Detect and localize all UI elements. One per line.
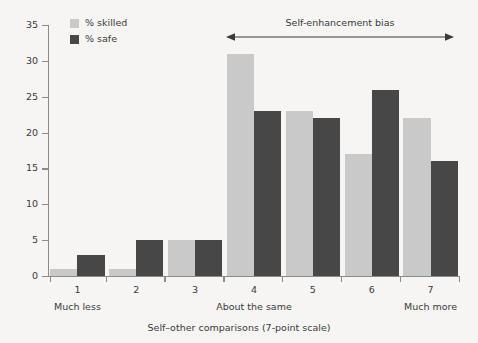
bar-skilled-5: [286, 111, 313, 276]
x-endpoint-much-more: Much more: [371, 301, 478, 312]
x-axis-tick-label: 5: [293, 284, 333, 295]
bar-chart: % skilled % safe Self-enhancement bias 0…: [0, 0, 478, 343]
y-axis-tick-label: 5: [0, 234, 38, 245]
x-axis-line: [48, 276, 460, 277]
x-axis-tick: [459, 277, 460, 282]
bar-safe-6: [372, 90, 399, 276]
bar-skilled-1: [50, 269, 77, 276]
bar-safe-4: [254, 111, 281, 276]
x-axis-tick: [400, 277, 401, 282]
x-axis-tick: [341, 277, 342, 282]
y-axis-tick-label: 30: [0, 55, 38, 66]
bar-safe-5: [313, 118, 340, 276]
bar-safe-2: [136, 240, 163, 276]
x-axis-tick-label: 7: [411, 284, 451, 295]
x-axis-tick-label: 3: [175, 284, 215, 295]
y-axis-tick-label: 25: [0, 91, 38, 102]
x-endpoint-about-the-same: About the same: [194, 301, 314, 312]
y-axis-tick-label: 35: [0, 19, 38, 30]
x-axis-title: Self–other comparisons (7-point scale): [0, 322, 478, 333]
bar-skilled-3: [168, 240, 195, 276]
bar-safe-1: [77, 255, 104, 277]
x-axis-tick: [223, 277, 224, 282]
y-axis-tick: [42, 276, 48, 277]
x-axis-tick-label: 4: [234, 284, 274, 295]
x-axis-tick-label: 6: [352, 284, 392, 295]
bar-safe-7: [431, 161, 458, 276]
bar-skilled-4: [227, 54, 254, 276]
x-axis-tick: [50, 277, 51, 282]
x-axis-tick: [282, 277, 283, 282]
bar-safe-3: [195, 240, 222, 276]
x-axis-tick-label: 2: [116, 284, 156, 295]
bar-skilled-7: [403, 118, 430, 276]
x-axis-tick-label: 1: [57, 284, 97, 295]
x-axis-tick: [164, 277, 165, 282]
bar-skilled-6: [345, 154, 372, 276]
x-axis-tick: [106, 277, 107, 282]
y-axis-tick-label: 0: [0, 270, 38, 281]
bar-skilled-2: [109, 269, 136, 276]
y-axis-tick-label: 20: [0, 127, 38, 138]
y-axis-tick-label: 10: [0, 198, 38, 209]
y-axis-tick-label: 15: [0, 162, 38, 173]
x-endpoint-much-less: Much less: [17, 301, 137, 312]
plot-area: [48, 25, 460, 276]
